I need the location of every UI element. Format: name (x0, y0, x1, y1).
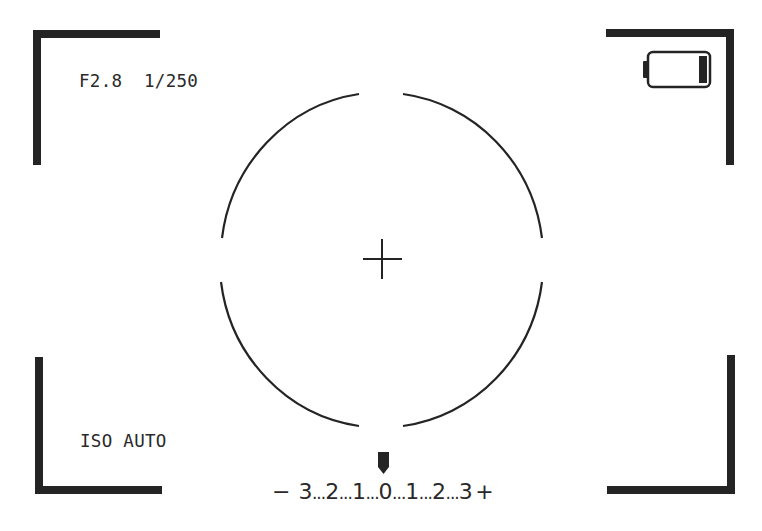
exposure-scale: − 3 ... 2 ... 1 ... 0 ... 1 ... 2 ... 3 … (272, 481, 498, 505)
scale-separator: ... (419, 485, 432, 502)
scale-tick: 1 (405, 481, 419, 503)
camera-viewfinder: F2.8 1/250 ISO AUTO (0, 0, 762, 531)
scale-separator: ... (446, 485, 459, 502)
scale-tick: 2 (325, 481, 339, 503)
scale-tick: 1 (352, 481, 366, 503)
scale-tick: 2 (432, 481, 446, 503)
crosshair-icon (363, 239, 402, 279)
scale-tick: 3 (298, 481, 312, 503)
scale-separator: ... (392, 485, 405, 502)
scale-separator: ... (365, 485, 378, 502)
battery-low-icon (643, 52, 710, 87)
exposure-pointer-icon (378, 452, 389, 474)
scale-separator: ... (312, 485, 325, 502)
scale-tick-current: 0 (379, 481, 393, 503)
scale-separator: ... (339, 485, 352, 502)
minus-sign: − (272, 481, 290, 503)
scale-tick: 3 (459, 481, 473, 503)
plus-sign: + (475, 481, 493, 503)
